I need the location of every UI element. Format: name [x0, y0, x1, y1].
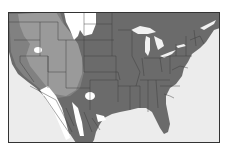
- range-map: [0, 0, 229, 154]
- absent-zone-idaho: [34, 47, 42, 53]
